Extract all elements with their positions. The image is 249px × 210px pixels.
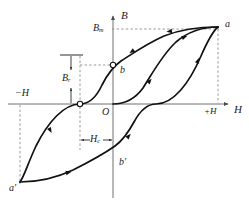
open-point-markers	[77, 62, 115, 106]
hc-label: Hc	[90, 134, 100, 145]
initial-magnetization-curve	[113, 27, 218, 104]
point-a-label: a	[225, 19, 230, 29]
origin-label: O	[102, 107, 109, 117]
axis-group	[8, 16, 228, 198]
marker-point-b	[110, 62, 115, 67]
dir-marker-desc-3	[47, 127, 54, 134]
bm-label-sub: m	[99, 26, 103, 33]
h-axis-label: H	[234, 104, 242, 115]
hysteresis-diagram: B H −H +H O Bm Br Hc a a′ b b′	[0, 0, 249, 210]
b-axis-label: B	[121, 10, 128, 21]
bm-label: Bm	[93, 23, 104, 34]
point-a-prime-label: a′	[9, 183, 16, 193]
negative-h-label: −H	[15, 88, 29, 98]
point-b-label: b	[120, 65, 125, 75]
br-label-sub: r	[68, 76, 70, 83]
hc-label-sub: c	[97, 137, 100, 144]
hysteresis-plot-svg	[0, 0, 249, 210]
br-label: Br	[62, 73, 71, 84]
point-b-prime-label: b′	[119, 157, 126, 167]
positive-h-label: +H	[204, 107, 217, 116]
marker-point-hc	[77, 101, 82, 106]
